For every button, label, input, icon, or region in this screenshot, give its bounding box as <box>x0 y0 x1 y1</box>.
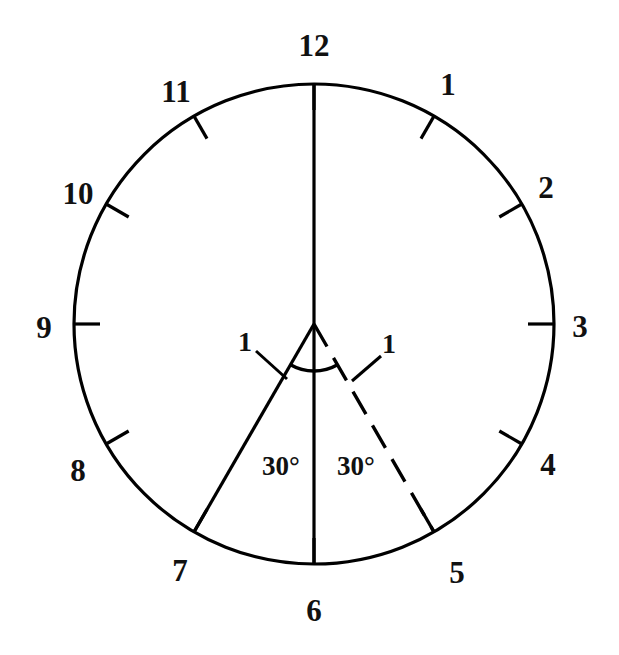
hour-label-5: 5 <box>449 557 465 588</box>
unit-label-right: 1 <box>382 330 396 358</box>
clock-angle-figure: 12 1 2 3 4 5 6 7 8 9 10 11 30° 30° 1 1 <box>0 0 619 655</box>
hour-tick <box>421 116 434 139</box>
hour-tick <box>194 116 207 139</box>
leader-line-left <box>256 351 287 379</box>
five-oclock-radius <box>314 324 434 532</box>
hour-label-6: 6 <box>306 595 322 626</box>
clock-diagram-svg <box>0 0 619 655</box>
hour-label-2: 2 <box>538 172 554 203</box>
hour-label-12: 12 <box>299 30 330 61</box>
hour-label-11: 11 <box>161 76 190 107</box>
hour-label-1: 1 <box>440 69 456 100</box>
hour-tick <box>499 431 522 444</box>
leader-line-right <box>352 356 381 381</box>
seven-oclock-radius <box>194 324 314 532</box>
hour-label-9: 9 <box>36 312 52 343</box>
hour-label-10: 10 <box>63 178 94 209</box>
hour-label-7: 7 <box>172 555 188 586</box>
angle-label-left: 30° <box>262 453 300 480</box>
hour-tick <box>106 431 129 444</box>
unit-label-left: 1 <box>238 328 252 356</box>
hour-label-8: 8 <box>70 455 86 486</box>
hour-label-3: 3 <box>572 311 588 342</box>
angle-label-right: 30° <box>337 453 375 480</box>
hour-tick <box>499 204 522 217</box>
hour-label-4: 4 <box>540 449 556 480</box>
hour-tick <box>106 204 129 217</box>
